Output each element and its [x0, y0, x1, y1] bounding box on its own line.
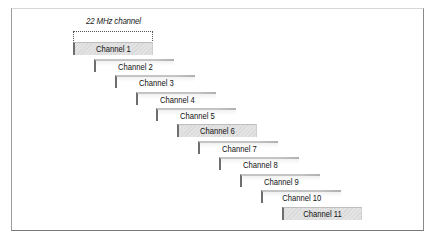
channel-3-block: Channel 3 [115, 75, 195, 88]
channel-8-block: Channel 8 [219, 157, 299, 170]
channel-1-block: Channel 1 [73, 42, 153, 55]
channel-2-block: Channel 2 [94, 59, 174, 72]
channel-10-block: Channel 10 [261, 190, 341, 203]
channel-7-block: Channel 7 [198, 141, 278, 154]
channel-label: Channel 10 [282, 192, 321, 205]
channel-label: Channel 9 [264, 176, 299, 189]
channel-5-block: Channel 5 [156, 108, 236, 121]
channel-label: Channel 1 [96, 43, 131, 56]
channel-6-block: Channel 6 [177, 124, 257, 137]
channel-label: Channel 4 [160, 94, 195, 107]
channel-4-block: Channel 4 [136, 92, 216, 105]
channel-label: Channel 3 [139, 77, 174, 90]
channel-label: Channel 5 [180, 110, 215, 123]
channel-label: Channel 11 [303, 208, 342, 221]
channel-label: Channel 2 [118, 61, 153, 74]
channel-width-label: 22 MHz channel [78, 16, 149, 26]
channel-label: Channel 6 [200, 125, 235, 138]
channel-11-block: Channel 11 [282, 207, 362, 220]
channel-width-bracket [73, 31, 153, 41]
channel-label: Channel 7 [222, 143, 257, 156]
channel-label: Channel 8 [243, 159, 278, 172]
channel-9-block: Channel 9 [240, 174, 320, 187]
